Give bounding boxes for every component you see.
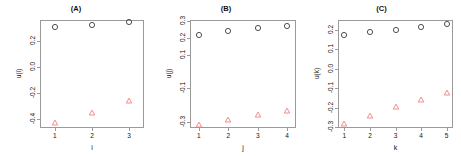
y-tick-mark — [37, 41, 40, 42]
y-axis-label: u(j) — [165, 59, 172, 89]
x-tick-mark — [55, 128, 56, 131]
x-tick-label: 1 — [191, 132, 207, 139]
x-tick-mark — [447, 128, 448, 131]
y-tick-label: 0.2 — [29, 29, 36, 51]
x-axis-label: k — [338, 144, 453, 151]
y-tick-mark — [187, 88, 190, 89]
y-tick-mark — [37, 119, 40, 120]
x-tick-label: 1 — [336, 132, 352, 139]
y-tick-label: 0.0 — [29, 55, 36, 77]
plot-area — [190, 20, 296, 128]
x-tick-mark — [228, 128, 229, 131]
x-tick-label: 4 — [413, 132, 429, 139]
x-tick-mark — [396, 128, 397, 131]
x-tick-mark — [129, 128, 130, 131]
y-tick-label: 0.1 — [179, 43, 186, 65]
x-tick-label: 5 — [439, 132, 455, 139]
x-tick-label: 3 — [250, 132, 266, 139]
y-tick-mark — [335, 108, 338, 109]
chart-panel-b: (B)0.30.20.1-0.1-0.3u(j)1234j — [150, 0, 302, 156]
panel-title: (C) — [302, 4, 461, 13]
x-tick-label: 2 — [220, 132, 236, 139]
y-axis-label: u(i) — [15, 59, 22, 89]
y-tick-mark — [335, 88, 338, 89]
panel-title: (A) — [0, 4, 152, 13]
y-axis-label: u(k) — [313, 59, 320, 89]
x-axis-label: j — [190, 144, 296, 151]
y-tick-mark — [187, 122, 190, 123]
y-tick-label: 0.1 — [327, 38, 334, 60]
x-tick-mark — [421, 128, 422, 131]
y-tick-mark — [37, 67, 40, 68]
y-tick-label: -0.3 — [179, 111, 186, 133]
x-tick-label: 3 — [388, 132, 404, 139]
y-tick-label: -0.1 — [179, 77, 186, 99]
x-tick-label: 2 — [362, 132, 378, 139]
x-tick-mark — [92, 128, 93, 131]
x-tick-label: 2 — [84, 132, 100, 139]
chart-panel-c: (C)0.20.10.0-0.1-0.2-0.3u(k)12345k — [302, 0, 461, 156]
y-tick-mark — [187, 55, 190, 56]
y-tick-mark — [187, 38, 190, 39]
x-tick-label: 1 — [47, 132, 63, 139]
y-tick-mark — [37, 93, 40, 94]
y-tick-mark — [187, 21, 190, 22]
y-tick-mark — [335, 49, 338, 50]
chart-panel-a: (A)0.20.0-0.2-0.4u(i)123i — [0, 0, 152, 156]
y-tick-label: -0.4 — [29, 107, 36, 129]
panel-title: (B) — [150, 4, 302, 13]
y-tick-mark — [335, 69, 338, 70]
x-tick-mark — [287, 128, 288, 131]
y-tick-mark — [335, 30, 338, 31]
x-tick-label: 4 — [279, 132, 295, 139]
x-tick-mark — [258, 128, 259, 131]
y-tick-mark — [335, 127, 338, 128]
y-tick-label: -0.3 — [327, 116, 334, 138]
y-tick-label: -0.2 — [29, 81, 36, 103]
x-tick-mark — [370, 128, 371, 131]
y-tick-label: -0.1 — [327, 77, 334, 99]
figure-canvas: (A)0.20.0-0.2-0.4u(i)123i(B)0.30.20.1-0.… — [0, 0, 461, 156]
x-tick-label: 3 — [121, 132, 137, 139]
x-axis-label: i — [40, 144, 144, 151]
